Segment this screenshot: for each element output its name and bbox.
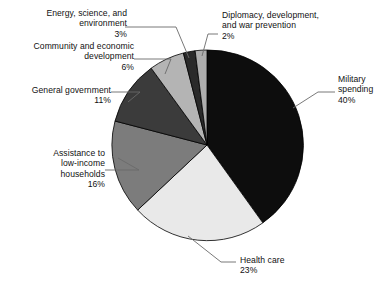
pie-label-energy-science-environment: Energy, science, and environment 3% (22, 8, 127, 39)
pie-label-diplomacy-development-war-prevention: Diplomacy, development, and war preventi… (222, 10, 342, 41)
pie-label-general-government: General government 11% (8, 85, 111, 106)
pie-label-assistance-low-income-households: Assistance to low-income households 16% (15, 148, 105, 190)
pie-label-community-economic-development: Community and economic development 6% (8, 41, 134, 72)
pie-chart-figure: Energy, science, and environment 3% Dipl… (0, 0, 391, 286)
leader-line-energy (125, 27, 189, 58)
pie-label-health-care: Health care 23% (240, 255, 310, 276)
leader-line-military (293, 92, 335, 108)
pie-slices (112, 50, 304, 241)
pie-label-military-spending: Military spending 40% (338, 74, 390, 105)
